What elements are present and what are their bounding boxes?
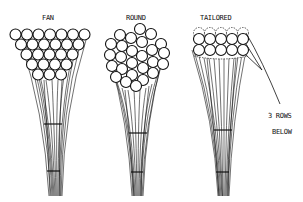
annotation-line1: 3 ROWS — [268, 112, 292, 120]
bouquet-diagram: FAN ROUND TAILORED — [0, 0, 303, 202]
round-title: ROUND — [126, 14, 146, 22]
fan-bouquet — [10, 29, 90, 196]
fan-title: FAN — [42, 14, 54, 22]
round-blooms — [105, 24, 170, 92]
tailored-stems — [192, 50, 246, 196]
annotation-leader — [246, 33, 280, 104]
tailored-blooms — [194, 28, 249, 60]
tailored-bouquet — [192, 28, 280, 197]
fan-blooms — [10, 29, 90, 80]
round-bouquet — [105, 24, 170, 197]
tailored-title: TAILORED — [200, 14, 231, 22]
annotation-line2: BELOW — [272, 128, 293, 136]
